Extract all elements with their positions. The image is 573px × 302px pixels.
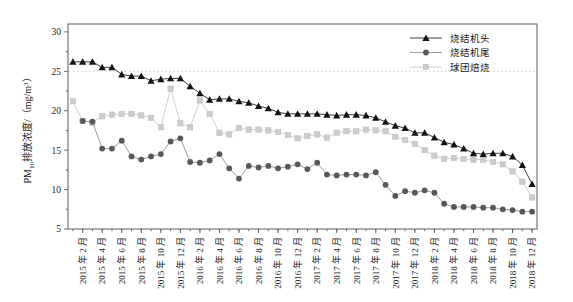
data-point	[353, 172, 359, 178]
svg-text:2016 年 12 月: 2016 年 12 月	[292, 237, 303, 289]
data-point	[197, 160, 203, 166]
svg-text:2017 年 10 月: 2017 年 10 月	[390, 237, 401, 289]
data-point	[256, 127, 261, 132]
data-point	[158, 151, 164, 157]
data-point	[187, 159, 193, 165]
data-point	[187, 83, 194, 90]
data-series-layer	[69, 58, 535, 214]
data-point	[207, 158, 213, 164]
svg-text:2017 年 4 月: 2017 年 4 月	[331, 237, 342, 284]
svg-text:5: 5	[56, 224, 61, 234]
chart-legend: 烧结机头烧结机尾球团焙烧	[398, 30, 530, 78]
data-point	[80, 118, 86, 124]
data-point	[99, 114, 104, 119]
data-point	[90, 119, 96, 125]
x-axis-ticks	[73, 229, 532, 233]
svg-text:25: 25	[52, 67, 62, 77]
svg-text:10: 10	[52, 185, 62, 195]
data-point	[274, 109, 281, 116]
data-point	[402, 137, 407, 142]
legend-marker	[423, 64, 428, 69]
data-point	[529, 209, 535, 215]
data-point	[432, 153, 437, 158]
data-point	[382, 118, 389, 125]
data-point	[509, 153, 516, 160]
chart-figure: PM10排放浓度/（mg/m3） 51015202530 2015 年 2 月2…	[0, 0, 573, 302]
data-point	[177, 135, 183, 141]
svg-text:2018 年 2 月: 2018 年 2 月	[429, 237, 440, 284]
data-point	[109, 146, 115, 152]
data-point	[139, 113, 144, 118]
data-point	[510, 169, 515, 174]
data-point	[275, 165, 281, 171]
data-point	[383, 129, 388, 134]
data-point	[217, 130, 222, 135]
data-point	[461, 204, 467, 210]
svg-text:2015 年 6 月: 2015 年 6 月	[116, 237, 127, 284]
svg-text:2015 年 12 月: 2015 年 12 月	[175, 237, 186, 289]
svg-text:2017 年 6 月: 2017 年 6 月	[351, 237, 362, 284]
data-point	[295, 161, 301, 167]
series-line	[73, 62, 532, 184]
data-point	[305, 133, 310, 138]
data-point	[392, 193, 398, 199]
legend-label: 烧结机头	[450, 33, 490, 44]
data-point	[246, 163, 252, 169]
svg-text:2015 年 10 月: 2015 年 10 月	[155, 237, 166, 289]
y-axis-ticks: 51015202530	[52, 27, 69, 234]
svg-text:2015 年 2 月: 2015 年 2 月	[77, 237, 88, 284]
data-point	[158, 125, 163, 130]
data-point	[441, 139, 448, 146]
data-point	[324, 135, 329, 140]
data-point	[168, 86, 173, 91]
svg-text:2016 年 4 月: 2016 年 4 月	[214, 237, 225, 284]
data-point	[334, 172, 340, 178]
data-point	[500, 206, 506, 212]
svg-text:2016 年 6 月: 2016 年 6 月	[233, 237, 244, 284]
svg-text:15: 15	[52, 146, 62, 156]
data-point	[490, 205, 496, 211]
svg-text:2015 年 8 月: 2015 年 8 月	[136, 237, 147, 284]
chart-canvas: PM10排放浓度/（mg/m3） 51015202530 2015 年 2 月2…	[0, 0, 573, 302]
svg-text:2018 年 8 月: 2018 年 8 月	[487, 237, 498, 284]
data-point	[480, 205, 486, 211]
data-point	[197, 98, 202, 103]
data-point	[529, 195, 534, 200]
data-point	[129, 111, 134, 116]
data-point	[519, 209, 525, 215]
data-point	[529, 180, 536, 187]
data-point	[148, 154, 154, 160]
data-point	[227, 132, 232, 137]
data-point	[265, 163, 271, 169]
svg-text:PM10排放浓度/（mg/m3）: PM10排放浓度/（mg/m3）	[21, 72, 36, 183]
data-point	[422, 187, 428, 193]
data-point	[178, 121, 183, 126]
data-point	[432, 190, 438, 196]
data-point	[392, 122, 399, 129]
data-point	[304, 166, 310, 172]
data-point	[285, 164, 291, 170]
svg-text:20: 20	[52, 106, 62, 116]
series-line	[73, 89, 532, 198]
data-point	[441, 156, 446, 161]
series-2	[80, 118, 535, 214]
svg-text:2018 年 10 月: 2018 年 10 月	[507, 237, 518, 289]
data-point	[510, 207, 516, 213]
data-point	[246, 127, 251, 132]
series-3	[70, 86, 535, 200]
data-point	[138, 157, 144, 163]
svg-text:2018 年 4 月: 2018 年 4 月	[448, 237, 459, 284]
data-point	[412, 190, 418, 196]
x-axis-tick-labels: 2015 年 2 月2015 年 4 月2015 年 6 月2015 年 8 月…	[77, 237, 537, 289]
data-point	[412, 141, 417, 146]
data-point	[470, 150, 477, 157]
svg-text:2018 年 6 月: 2018 年 6 月	[468, 237, 479, 284]
data-point	[520, 179, 525, 184]
svg-text:30: 30	[52, 27, 62, 37]
y-axis-label: PM10排放浓度/（mg/m3）	[21, 72, 36, 183]
data-point	[373, 169, 379, 175]
data-point	[168, 139, 174, 145]
data-point	[314, 132, 319, 137]
data-point	[285, 132, 290, 137]
legend-label: 球团焙烧	[450, 62, 490, 73]
